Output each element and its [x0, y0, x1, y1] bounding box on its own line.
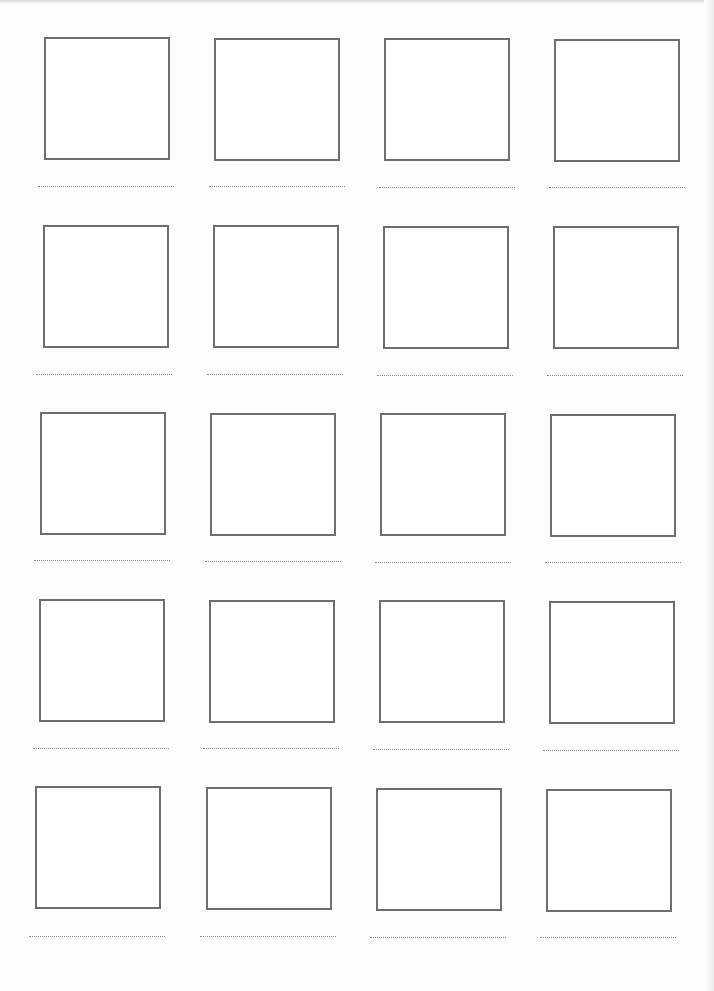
- scan-right-shadow: [704, 0, 714, 991]
- label-dotted-line[interactable]: [545, 562, 681, 563]
- drawing-box[interactable]: [549, 601, 675, 724]
- drawing-box[interactable]: [380, 413, 506, 536]
- label-dotted-line[interactable]: [205, 561, 341, 562]
- label-dotted-line[interactable]: [33, 748, 169, 749]
- label-dotted-line[interactable]: [370, 937, 506, 938]
- drawing-box[interactable]: [44, 37, 170, 160]
- drawing-box[interactable]: [40, 412, 166, 535]
- label-dotted-line[interactable]: [543, 750, 679, 751]
- drawing-box[interactable]: [554, 39, 680, 162]
- label-dotted-line[interactable]: [203, 748, 339, 749]
- drawing-box[interactable]: [35, 786, 161, 909]
- drawing-box[interactable]: [210, 413, 336, 536]
- label-dotted-line[interactable]: [29, 936, 165, 937]
- label-dotted-line[interactable]: [34, 560, 170, 561]
- label-dotted-line[interactable]: [373, 749, 509, 750]
- label-dotted-line[interactable]: [36, 374, 172, 375]
- drawing-box[interactable]: [383, 226, 509, 349]
- label-dotted-line[interactable]: [38, 186, 174, 187]
- drawing-box[interactable]: [213, 225, 339, 348]
- label-dotted-line[interactable]: [547, 375, 683, 376]
- drawing-box[interactable]: [43, 225, 169, 348]
- scan-top-shadow: [0, 0, 714, 4]
- drawing-box[interactable]: [379, 600, 505, 723]
- drawing-box[interactable]: [39, 599, 165, 722]
- label-dotted-line[interactable]: [377, 375, 513, 376]
- drawing-box[interactable]: [546, 789, 672, 912]
- drawing-box[interactable]: [376, 788, 502, 911]
- label-dotted-line[interactable]: [207, 374, 343, 375]
- drawing-box[interactable]: [384, 38, 510, 161]
- label-dotted-line[interactable]: [200, 936, 336, 937]
- label-dotted-line[interactable]: [379, 187, 515, 188]
- drawing-box[interactable]: [206, 787, 332, 910]
- label-dotted-line[interactable]: [375, 562, 511, 563]
- drawing-box[interactable]: [214, 38, 340, 161]
- label-dotted-line[interactable]: [549, 187, 685, 188]
- drawing-box[interactable]: [553, 226, 679, 349]
- drawing-box[interactable]: [550, 414, 676, 537]
- label-dotted-line[interactable]: [209, 186, 345, 187]
- drawing-box[interactable]: [209, 600, 335, 723]
- label-dotted-line[interactable]: [540, 937, 676, 938]
